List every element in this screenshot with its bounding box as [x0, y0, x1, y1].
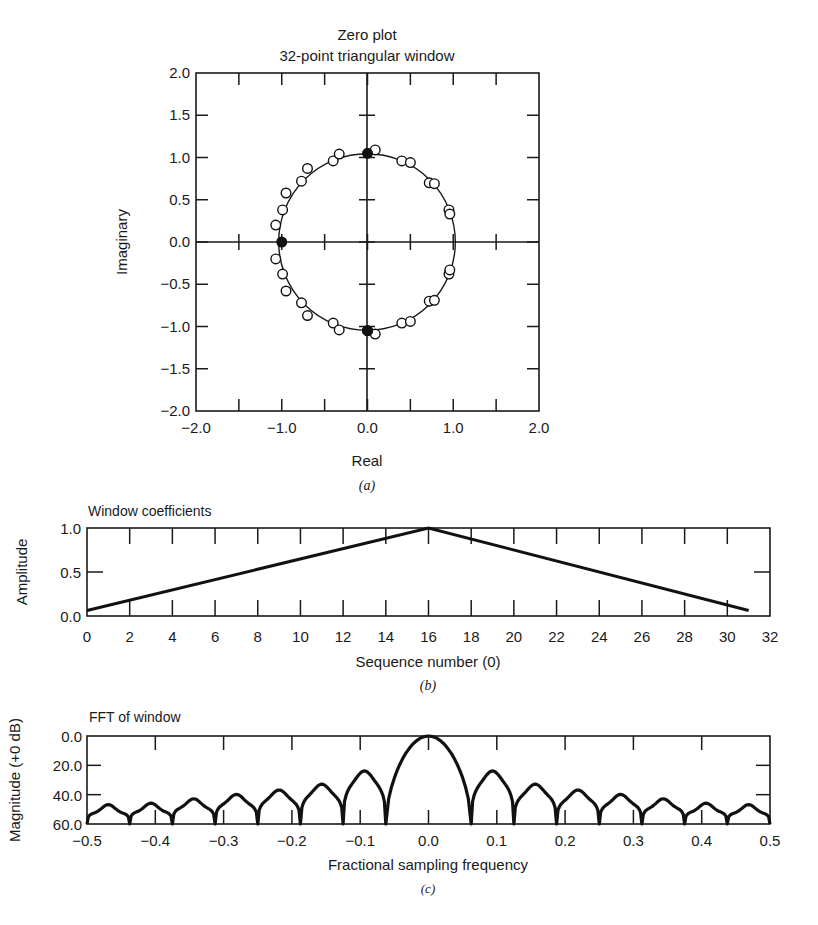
y-tick-label: 1.5 — [169, 106, 190, 123]
y-tick-label: 0.0 — [60, 608, 81, 625]
y-tick-label: −2.0 — [160, 402, 190, 419]
y-tick-label: 1.0 — [169, 149, 190, 166]
x-tick-label: 18 — [463, 628, 480, 645]
fft-plot-xlabel: Fractional sampling frequency — [328, 856, 529, 873]
figure: Zero plot 32-point triangular window 2.0… — [0, 0, 818, 925]
x-tick-label: 0.1 — [486, 832, 507, 849]
x-tick-label: 14 — [377, 628, 394, 645]
open-zero-marker — [445, 265, 455, 275]
x-tick-label: 22 — [548, 628, 565, 645]
fft-plot-ticks — [87, 736, 770, 824]
x-tick-label: 8 — [254, 628, 262, 645]
x-tick-label: −0.4 — [140, 832, 170, 849]
open-zero-marker — [334, 149, 344, 159]
y-tick-label: 0.5 — [169, 191, 190, 208]
open-zero-marker — [406, 158, 416, 168]
x-tick-label: 24 — [591, 628, 608, 645]
y-tick-label: 40.0 — [53, 787, 82, 804]
y-tick-label: −1.0 — [160, 318, 190, 335]
x-tick-label: −0.3 — [209, 832, 239, 849]
zero-plot: Zero plot 32-point triangular window 2.0… — [113, 26, 549, 494]
fft-plot-tick-labels: −0.5−0.4−0.3−0.2−0.10.00.10.20.30.40.50.… — [53, 728, 781, 849]
filled-zero-marker — [363, 326, 373, 336]
window-plot-xlabel: Sequence number (0) — [355, 653, 500, 670]
x-tick-label: 4 — [168, 628, 176, 645]
x-tick-label: −0.5 — [72, 832, 102, 849]
zero-plot-tick-labels: 2.01.51.00.50.0−0.5−1.0−1.5−2.0−2.0−1.00… — [160, 64, 549, 436]
x-tick-label: 32 — [762, 628, 779, 645]
x-tick-label: 1.0 — [443, 419, 464, 436]
zero-plot-subtitle: 32-point triangular window — [279, 47, 454, 64]
x-tick-label: 2 — [126, 628, 134, 645]
x-tick-label: 10 — [292, 628, 309, 645]
window-plot-ticks — [87, 528, 770, 616]
zero-plot-ylabel: Imaginary — [113, 209, 130, 275]
open-zero-marker — [303, 311, 313, 321]
open-zero-marker — [334, 325, 344, 335]
x-tick-label: 0.0 — [418, 832, 439, 849]
x-tick-label: −1.0 — [267, 419, 297, 436]
zero-plot-caption: (a) — [359, 478, 376, 494]
open-zero-marker — [278, 269, 288, 279]
x-tick-label: 2.0 — [529, 419, 550, 436]
window-plot-tick-labels: 024681012141618202224262830321.00.50.0 — [60, 520, 778, 645]
open-zero-marker — [445, 209, 455, 219]
window-coefficients-plot: Window coefficients 02468101214161820222… — [13, 503, 778, 694]
x-tick-label: 0 — [83, 628, 91, 645]
zero-plot-title: Zero plot — [337, 26, 397, 43]
open-zero-marker — [278, 205, 288, 215]
x-tick-label: −2.0 — [181, 419, 211, 436]
y-tick-label: 1.0 — [60, 520, 81, 537]
x-tick-label: 16 — [420, 628, 437, 645]
open-zero-marker — [271, 254, 281, 264]
window-plot-caption: (b) — [420, 678, 437, 694]
open-zero-marker — [430, 179, 440, 189]
fft-plot-ylabel: Magnitude (+0 dB) — [6, 718, 23, 842]
x-tick-label: −0.1 — [345, 832, 375, 849]
y-tick-label: −1.5 — [160, 360, 190, 377]
y-tick-label: 0.0 — [61, 728, 82, 745]
filled-zero-marker — [363, 148, 373, 158]
open-zero-marker — [406, 317, 416, 327]
open-zero-marker — [430, 296, 440, 306]
window-plot-ylabel: Amplitude — [13, 539, 30, 606]
y-tick-label: 2.0 — [169, 64, 190, 81]
y-tick-label: 0.0 — [169, 233, 190, 250]
open-zero-marker — [297, 298, 307, 308]
x-tick-label: 0.2 — [555, 832, 576, 849]
open-zero-marker — [271, 220, 281, 230]
zero-plot-xlabel: Real — [352, 452, 383, 469]
x-tick-label: 30 — [719, 628, 736, 645]
open-zero-marker — [281, 286, 291, 296]
x-tick-label: 26 — [634, 628, 651, 645]
x-tick-label: 6 — [211, 628, 219, 645]
fft-plot-title: FFT of window — [89, 709, 181, 725]
y-tick-label: 20.0 — [53, 757, 82, 774]
x-tick-label: 20 — [506, 628, 523, 645]
open-zero-marker — [281, 188, 291, 198]
x-tick-label: 0.4 — [691, 832, 712, 849]
fft-plot-caption: (c) — [421, 881, 435, 896]
y-tick-label: 60.0 — [53, 816, 82, 833]
fft-plot: FFT of window −0.5−0.4−0.3−0.2−0.10.00.1… — [6, 709, 780, 896]
x-tick-label: 0.5 — [760, 832, 781, 849]
y-tick-label: 0.5 — [60, 564, 81, 581]
x-tick-label: 12 — [335, 628, 352, 645]
x-tick-label: 0.0 — [357, 419, 378, 436]
open-zero-marker — [297, 176, 307, 186]
filled-zero-marker — [277, 237, 287, 247]
x-tick-label: 0.3 — [623, 832, 644, 849]
open-zero-marker — [303, 164, 313, 174]
window-plot-title: Window coefficients — [88, 503, 211, 519]
y-tick-label: −0.5 — [160, 275, 190, 292]
window-curve — [87, 528, 749, 611]
x-tick-label: −0.2 — [277, 832, 307, 849]
x-tick-label: 28 — [676, 628, 693, 645]
